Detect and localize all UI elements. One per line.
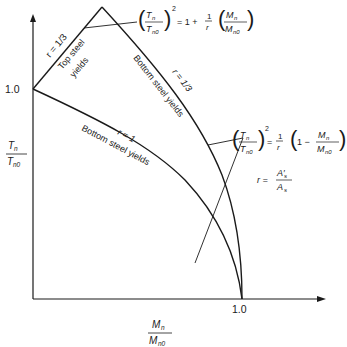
svg-text:1: 1 [278,132,283,141]
x-axis-label: M n M n0 [148,319,172,347]
svg-text:n: n [326,135,330,141]
label-bottom-steel-yields-r-third: Bottom steel yields [131,53,186,119]
leader-top-equation [84,22,137,28]
equation-ratio: r = A′ s A s [257,168,292,193]
svg-text:n0: n0 [246,149,253,155]
svg-text:r: r [277,143,280,152]
x-axis-arrow-icon [317,296,326,302]
svg-text:n0: n0 [152,29,159,35]
svg-text:=: = [267,137,272,147]
curve-r-one [33,89,242,299]
equation-bottom: ( T n T n0 ) 2 = 1 r ( 1 − M n M n0 ) [232,125,346,155]
svg-text:): ) [164,6,171,31]
svg-text:n0: n0 [325,149,332,155]
svg-text:n: n [152,15,156,21]
svg-text:M: M [149,335,158,346]
svg-text:n0: n0 [13,161,21,168]
label-r-third-bottom: r = 1/3 [170,67,194,93]
svg-text:1 −: 1 − [297,137,310,147]
svg-text:n: n [234,15,238,21]
svg-text:(: ( [232,126,240,151]
svg-text:r: r [206,23,209,32]
svg-text:n: n [246,135,250,141]
curve-r-third-top [33,7,102,89]
svg-text:2: 2 [265,125,269,132]
svg-text:): ) [339,126,346,151]
svg-text:s: s [284,173,287,179]
svg-text:s: s [284,187,287,193]
svg-text:): ) [247,6,254,31]
svg-text:(: ( [138,6,146,31]
svg-text:M: M [226,10,234,20]
y-tick-label: 1.0 [5,83,20,95]
svg-text:= 1 +: = 1 + [177,17,198,27]
svg-text:1: 1 [207,12,212,21]
svg-text:r =: r = [257,175,268,185]
svg-text:M: M [317,144,325,154]
svg-text:A: A [276,182,283,192]
svg-text:M: M [318,130,326,140]
interaction-diagram: 1.0 1.0 T n T n0 M n M n0 r = 1/3 Top st… [0,0,347,347]
svg-text:2: 2 [172,5,176,12]
y-axis-label: T n T n0 [6,140,27,168]
svg-text:M: M [225,24,233,34]
y-axis-arrow-icon [30,14,36,22]
svg-text:M: M [152,319,161,330]
svg-text:n0: n0 [233,29,240,35]
svg-text:n0: n0 [158,340,166,347]
equation-top: ( T n T n0 ) 2 = 1 + 1 r ( M n M n0 ) [138,5,254,35]
svg-text:n: n [161,324,165,331]
svg-text:n: n [14,145,18,152]
x-tick-label: 1.0 [232,303,247,315]
